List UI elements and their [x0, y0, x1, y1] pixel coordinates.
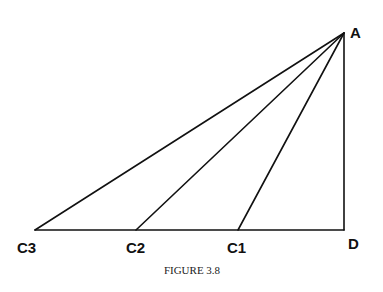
label-point-c3: C3 — [17, 239, 36, 256]
figure-diagram: A D C1 C2 C3 FIGURE 3.8 — [0, 0, 383, 292]
segment-a-c3 — [35, 33, 344, 230]
segment-a-c1 — [238, 33, 344, 230]
segment-a-c2 — [136, 33, 344, 230]
label-point-c2: C2 — [126, 239, 145, 256]
figure-caption: FIGURE 3.8 — [164, 264, 221, 276]
label-point-c1: C1 — [227, 239, 246, 256]
label-point-d: D — [348, 235, 359, 252]
label-point-a: A — [350, 24, 361, 41]
